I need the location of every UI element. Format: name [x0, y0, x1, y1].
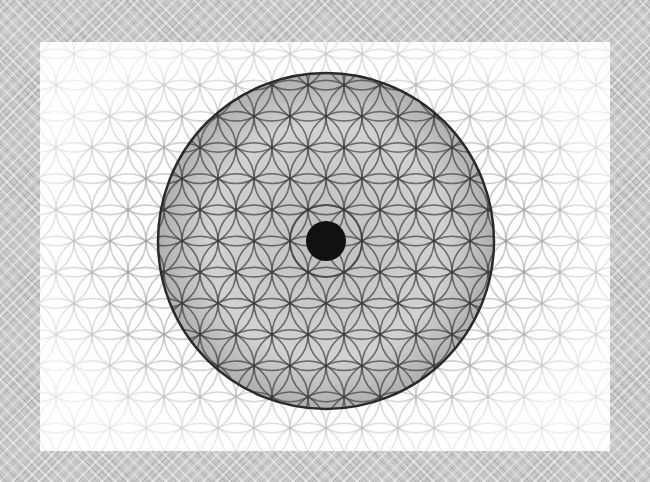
flower-of-life-artwork: [40, 42, 610, 451]
center-dot: [306, 221, 346, 261]
artwork-panel: [40, 42, 610, 451]
